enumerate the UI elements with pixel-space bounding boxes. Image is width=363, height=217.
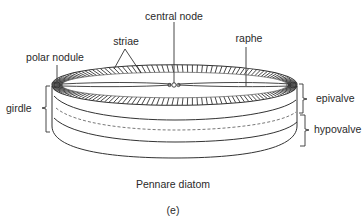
hypovalve-label: hypovalve (314, 123, 361, 135)
hypovalve-bracket (300, 115, 309, 146)
raphe-label: raphe (236, 32, 263, 44)
epivalve-label: epivalve (316, 92, 355, 104)
girdle-bracket (42, 86, 50, 132)
diagram-title: Pennare diatom (136, 178, 210, 190)
panel-label: (e) (167, 204, 180, 216)
striae-label: striae (113, 35, 139, 47)
central-node-label: central node (145, 10, 203, 22)
epivalve-top (52, 65, 297, 106)
girdle-label: girdle (6, 102, 32, 114)
epivalve-bracket (299, 84, 307, 113)
pennate-diatom-diagram: central node striae polar nodule raphe g… (0, 0, 363, 217)
polar-nodule-label: polar nodule (26, 51, 84, 63)
